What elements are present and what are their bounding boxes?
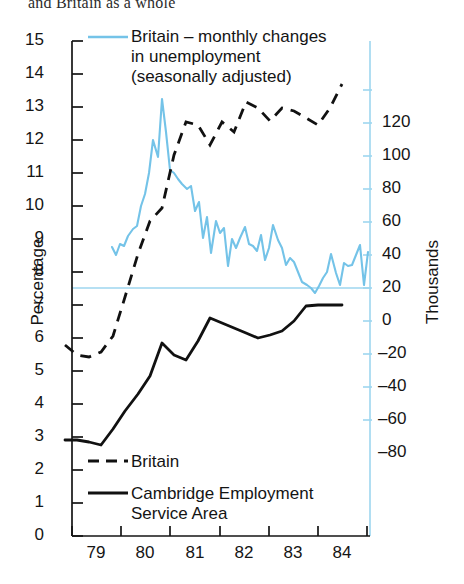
xtick-83: 83 (273, 543, 313, 563)
ytick-right-neg80: –80 (378, 442, 406, 462)
series-britain-percentage (65, 84, 342, 357)
xtick-82: 82 (224, 543, 264, 563)
xtick-81: 81 (175, 543, 215, 563)
legend-label-britain-monthly-changes: Britain – monthly changes in unemploymen… (131, 27, 327, 87)
ytick-left-0: 0 (14, 525, 44, 545)
y-axis-title-left: Percentage (28, 222, 48, 342)
xtick-79: 79 (76, 543, 116, 563)
ytick-left-10: 10 (14, 195, 44, 215)
series-cambridge (65, 305, 342, 445)
ytick-right-0: 0 (382, 310, 391, 330)
ytick-left-1: 1 (14, 492, 44, 512)
ytick-right-20: 20 (382, 277, 401, 297)
ytick-left-4: 4 (14, 393, 44, 413)
xtick-84: 84 (322, 543, 362, 563)
ytick-left-15: 15 (14, 30, 44, 50)
ytick-left-2: 2 (14, 459, 44, 479)
ytick-left-12: 12 (14, 129, 44, 149)
ytick-right-neg20: –20 (378, 343, 406, 363)
ytick-right-100: 100 (382, 145, 410, 165)
xtick-80: 80 (125, 543, 165, 563)
ytick-right-80: 80 (382, 178, 401, 198)
legend-label-cambridge: Cambridge Employment Service Area (131, 484, 313, 524)
legend-label-britain: Britain (131, 452, 179, 472)
ytick-left-11: 11 (14, 162, 44, 182)
ytick-left-13: 13 (14, 96, 44, 116)
ytick-left-14: 14 (14, 63, 44, 83)
ytick-right-120: 120 (382, 112, 410, 132)
bottom-axis-ticks (72, 526, 367, 536)
ytick-right-neg40: –40 (378, 376, 406, 396)
series-britain-monthly-changes (112, 99, 368, 293)
y-axis-title-right: Thousands (423, 217, 443, 347)
ytick-right-60: 60 (382, 211, 401, 231)
ytick-left-5: 5 (14, 360, 44, 380)
ytick-right-neg60: –60 (378, 409, 406, 429)
ytick-right-40: 40 (382, 244, 401, 264)
ytick-left-3: 3 (14, 426, 44, 446)
